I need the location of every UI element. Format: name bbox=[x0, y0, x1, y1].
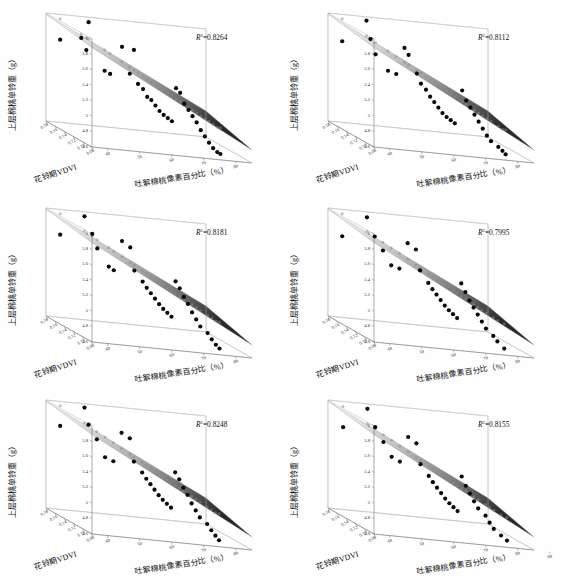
data-point-shadow bbox=[465, 103, 468, 106]
data-point bbox=[128, 72, 132, 76]
data-point bbox=[218, 152, 222, 156]
svg-text:0.14: 0.14 bbox=[340, 519, 350, 528]
svg-text:5.8: 5.8 bbox=[364, 438, 370, 443]
data-point-shadow bbox=[112, 250, 115, 253]
plot-panel-top-left: 4.64.855.25.45.65.860.180.160.140.120.10… bbox=[0, 0, 282, 193]
data-point bbox=[407, 53, 411, 57]
svg-text:0.12: 0.12 bbox=[349, 137, 359, 146]
svg-text:70: 70 bbox=[201, 160, 207, 166]
svg-text:70: 70 bbox=[483, 160, 489, 166]
data-point bbox=[152, 488, 156, 492]
data-point-shadow bbox=[429, 78, 432, 81]
data-point bbox=[398, 459, 402, 463]
data-point bbox=[58, 38, 62, 42]
r-squared-value: =0.8181 bbox=[203, 228, 228, 237]
data-point bbox=[464, 484, 468, 488]
svg-text:60: 60 bbox=[451, 544, 457, 550]
data-point bbox=[468, 491, 472, 495]
r-squared-annotation: R2=0.8264 bbox=[195, 33, 228, 42]
data-point-shadow bbox=[218, 512, 221, 515]
data-point-shadow bbox=[381, 241, 384, 244]
data-point bbox=[453, 121, 457, 125]
svg-text:5.4: 5.4 bbox=[82, 277, 88, 282]
data-point-shadow bbox=[162, 89, 165, 92]
data-point-shadow bbox=[165, 478, 168, 481]
data-point bbox=[111, 459, 115, 463]
data-point-shadow bbox=[419, 459, 422, 462]
data-point bbox=[132, 269, 136, 273]
data-point-shadow bbox=[452, 481, 455, 484]
svg-text:60: 60 bbox=[451, 352, 457, 358]
data-point-shadow bbox=[83, 421, 86, 424]
data-point bbox=[141, 279, 145, 283]
data-point bbox=[173, 470, 177, 474]
data-point bbox=[381, 440, 385, 444]
data-point-shadow bbox=[445, 90, 448, 93]
r-squared-annotation: R2=0.7995 bbox=[477, 228, 510, 237]
svg-text:0.18: 0.18 bbox=[322, 316, 332, 325]
data-point bbox=[491, 334, 495, 338]
data-point-shadow bbox=[174, 292, 177, 295]
data-point-shadow bbox=[431, 275, 434, 278]
data-point-shadow bbox=[441, 87, 444, 90]
data-point-shadow bbox=[449, 93, 452, 96]
data-point-shadow bbox=[162, 284, 165, 287]
data-point bbox=[447, 501, 451, 505]
data-point bbox=[157, 109, 161, 113]
data-point bbox=[112, 268, 116, 272]
data-point bbox=[194, 508, 198, 512]
data-point-shadow bbox=[80, 32, 83, 35]
plot-panel-bottom-left: 4.64.855.25.45.65.860.180.160.140.120.10… bbox=[0, 387, 282, 580]
data-point-shadow bbox=[59, 404, 62, 407]
data-point-shadow bbox=[104, 436, 107, 439]
data-point-shadow bbox=[195, 306, 198, 309]
data-point bbox=[169, 315, 173, 319]
svg-text:50: 50 bbox=[419, 541, 425, 547]
data-point bbox=[209, 528, 213, 532]
data-point-shadow bbox=[503, 322, 506, 325]
data-point-shadow bbox=[453, 95, 456, 98]
svg-text:60: 60 bbox=[169, 157, 175, 163]
data-point-shadow bbox=[158, 281, 161, 284]
svg-text:4.8: 4.8 bbox=[82, 128, 88, 133]
data-point bbox=[198, 515, 202, 519]
data-point-shadow bbox=[435, 470, 438, 473]
data-point bbox=[128, 245, 132, 249]
data-point bbox=[455, 509, 459, 513]
data-point bbox=[185, 493, 189, 497]
figure-canvas: 4.64.855.25.45.65.860.180.160.140.120.10… bbox=[0, 0, 564, 580]
plot-svg: 4.64.855.25.45.65.860.180.160.140.120.10… bbox=[282, 195, 564, 388]
plot-svg: 4.64.855.25.45.65.860.180.160.140.120.10… bbox=[0, 0, 282, 193]
data-point-shadow bbox=[191, 109, 194, 112]
x-axis-title: 花铃期VDVI bbox=[33, 356, 78, 379]
svg-text:0.12: 0.12 bbox=[67, 137, 77, 146]
data-point bbox=[468, 106, 472, 110]
r-squared-value: =0.8264 bbox=[203, 33, 228, 42]
svg-text:40: 40 bbox=[105, 346, 111, 352]
data-point-shadow bbox=[137, 71, 140, 74]
data-point bbox=[145, 95, 149, 99]
z-axis-title: 上层棉桃单铃重（g） bbox=[7, 442, 17, 518]
data-point-shadow bbox=[464, 297, 467, 300]
svg-text:0.18: 0.18 bbox=[40, 316, 50, 325]
data-point-shadow bbox=[473, 495, 476, 498]
data-point-shadow bbox=[365, 230, 368, 233]
svg-text:40: 40 bbox=[387, 346, 393, 352]
r-squared-annotation: R2=0.8155 bbox=[477, 420, 510, 429]
data-point bbox=[199, 128, 203, 132]
data-point-shadow bbox=[199, 114, 202, 117]
data-point bbox=[214, 343, 218, 347]
y-axis-title: 吐絮棉桃像素百分比（%） bbox=[416, 552, 511, 577]
plot-panel-middle-left: 4.64.855.25.45.65.860.180.160.140.120.10… bbox=[0, 195, 282, 388]
svg-text:50: 50 bbox=[137, 154, 143, 160]
y-axis-title: 吐絮棉桃像素百分比（%） bbox=[134, 165, 229, 190]
svg-text:4.8: 4.8 bbox=[364, 128, 370, 133]
svg-text:50: 50 bbox=[137, 541, 143, 547]
data-point-shadow bbox=[179, 100, 182, 103]
data-point bbox=[459, 281, 463, 285]
data-point-shadow bbox=[437, 84, 440, 87]
r-squared-value: =0.7995 bbox=[485, 228, 510, 237]
data-point bbox=[455, 316, 459, 320]
svg-text:60: 60 bbox=[169, 544, 175, 550]
data-point-shadow bbox=[128, 453, 131, 456]
